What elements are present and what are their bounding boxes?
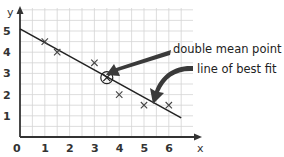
x-tick-label: 3 (91, 142, 99, 155)
x-tick-labels: 0123456 (13, 142, 173, 155)
x-tick-label: 5 (141, 142, 149, 155)
scatter-chart: x y 0123456 12345 double mean point line… (0, 0, 284, 157)
y-tick-label: 5 (3, 25, 11, 38)
annotation-double-mean-point: double mean point (173, 42, 282, 56)
y-axis-label: y (7, 6, 14, 19)
y-tick-labels: 12345 (3, 25, 11, 123)
y-tick-label: 4 (3, 46, 11, 59)
x-tick-label: 0 (13, 142, 21, 155)
x-axis-label: x (197, 142, 204, 155)
y-tick-label: 3 (3, 67, 11, 80)
x-axis-arrow-icon (194, 134, 202, 141)
axes: x y (7, 6, 204, 155)
y-tick-label: 1 (3, 110, 11, 123)
x-tick-label: 4 (116, 142, 124, 155)
x-tick-label: 1 (41, 142, 49, 155)
y-tick-label: 2 (3, 89, 11, 102)
x-tick-label: 2 (66, 142, 74, 155)
x-tick-label: 6 (165, 142, 173, 155)
annotation-line-of-best-fit: line of best fit (197, 62, 277, 76)
grid (20, 8, 193, 137)
